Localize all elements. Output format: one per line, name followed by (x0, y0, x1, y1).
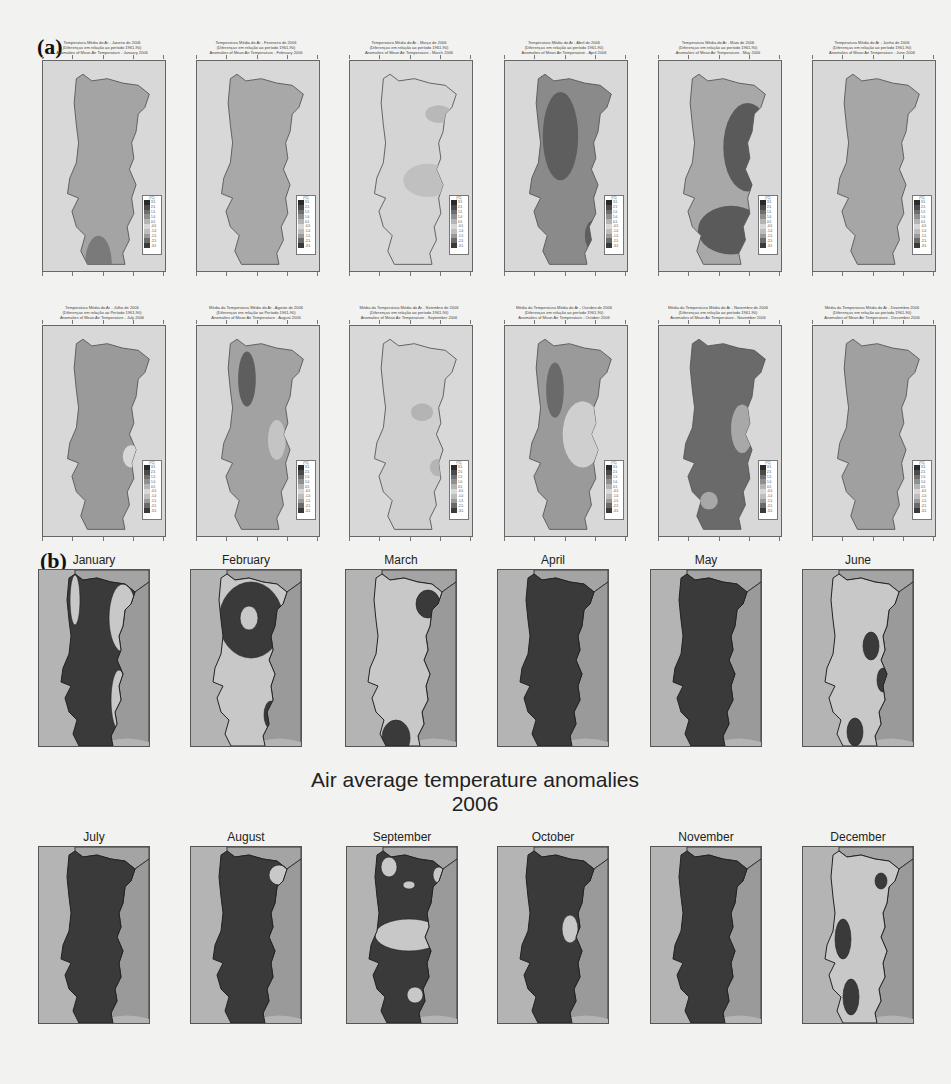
legend-entry: -3.5 (297, 243, 315, 248)
map-a-november: Média da Temperatura Média do Ar - Novem… (650, 305, 786, 543)
color-legend: (ºC)3.52.51.51.00.5-0.5-1.0-1.5-2.5-3.5 (296, 195, 316, 255)
map-b-title: February (190, 553, 302, 567)
axis-ticks (812, 320, 934, 324)
map-b-frame (38, 569, 150, 747)
legend-entry: -3.5 (605, 508, 623, 513)
legend-entry: -3.5 (450, 508, 468, 513)
axis-ticks (349, 537, 471, 541)
map-a-frame: (ºC)3.52.51.51.00.5-0.5-1.0-1.5-2.5-3.5 (812, 325, 936, 537)
map-b-frame (38, 846, 150, 1024)
map-a-title: Temperatura Média do Ar - Junho de 2006(… (804, 40, 940, 55)
map-a-title: Temperatura Média do Ar - Maio de 2006(D… (650, 40, 786, 55)
axis-ticks (504, 272, 626, 276)
axis-ticks (658, 320, 780, 324)
map-b-frame (802, 569, 914, 747)
main-title-line2: 2006 (250, 792, 700, 816)
axis-ticks (42, 320, 164, 324)
color-legend: (ºC)3.52.51.51.00.5-0.5-1.0-1.5-2.5-3.5 (142, 195, 162, 255)
color-legend: (ºC)3.52.51.51.00.5-0.5-1.0-1.5-2.5-3.5 (449, 195, 469, 255)
axis-ticks (504, 537, 626, 541)
map-a-title: Temperatura Média do Ar - Fevereiro de 2… (188, 40, 324, 55)
map-a-frame: (ºC)3.52.51.51.00.5-0.5-1.0-1.5-2.5-3.5 (196, 325, 320, 537)
map-b-frame (190, 846, 302, 1024)
axis-ticks (504, 320, 626, 324)
map-a-frame: (ºC)3.52.51.51.00.5-0.5-1.0-1.5-2.5-3.5 (42, 60, 166, 272)
color-legend: (ºC)3.52.51.51.00.5-0.5-1.0-1.5-2.5-3.5 (604, 460, 624, 520)
map-a-title: Temperatura Média do Ar - Março de 2006(… (341, 40, 477, 55)
legend-entry: -3.5 (143, 243, 161, 248)
map-a-frame: (ºC)3.52.51.51.00.5-0.5-1.0-1.5-2.5-3.5 (658, 325, 782, 537)
map-b-title: January (38, 553, 150, 567)
axis-ticks (658, 55, 780, 59)
map-a-june: Temperatura Média do Ar - Junho de 2006(… (804, 40, 940, 278)
color-legend: (ºC)3.52.51.51.00.5-0.5-1.0-1.5-2.5-3.5 (296, 460, 316, 520)
legend-entry: -3.5 (450, 243, 468, 248)
map-a-title: Temperatura Média do Ar - Abril de 2006(… (496, 40, 632, 55)
axis-ticks (658, 537, 780, 541)
map-b-frame (345, 569, 457, 747)
map-b-title: August (190, 830, 302, 844)
legend-entry: -3.5 (913, 508, 931, 513)
map-b-title: June (802, 553, 914, 567)
axis-ticks (42, 272, 164, 276)
axis-ticks (42, 55, 164, 59)
legend-entry: -3.5 (913, 243, 931, 248)
axis-ticks (349, 55, 471, 59)
map-a-frame: (ºC)3.52.51.51.00.5-0.5-1.0-1.5-2.5-3.5 (504, 60, 628, 272)
map-b-title: March (345, 553, 457, 567)
main-title-line1: Air average temperature anomalies (250, 768, 700, 792)
map-a-february: Temperatura Média do Ar - Fevereiro de 2… (188, 40, 324, 278)
map-b-frame (802, 846, 914, 1024)
map-a-title: Média da Temperatura Média do Ar - Agost… (188, 305, 324, 320)
map-a-frame: (ºC)3.52.51.51.00.5-0.5-1.0-1.5-2.5-3.5 (812, 60, 936, 272)
map-a-may: Temperatura Média do Ar - Maio de 2006(D… (650, 40, 786, 278)
axis-ticks (349, 320, 471, 324)
map-b-frame (497, 569, 609, 747)
color-legend: (ºC)3.52.51.51.00.5-0.5-1.0-1.5-2.5-3.5 (758, 460, 778, 520)
axis-ticks (812, 537, 934, 541)
map-a-frame: (ºC)3.52.51.51.00.5-0.5-1.0-1.5-2.5-3.5 (349, 60, 473, 272)
map-b-title: October (497, 830, 609, 844)
legend-entry: -3.5 (759, 508, 777, 513)
map-b-frame (497, 846, 609, 1024)
map-b-title: November (650, 830, 762, 844)
map-a-august: Média da Temperatura Média do Ar - Agost… (188, 305, 324, 543)
axis-ticks (196, 55, 318, 59)
legend-entry: -3.5 (605, 243, 623, 248)
map-b-title: May (650, 553, 762, 567)
axis-ticks (196, 537, 318, 541)
axis-ticks (196, 320, 318, 324)
map-b-frame (650, 846, 762, 1024)
map-b-title: April (497, 553, 609, 567)
map-a-september: Média da Temperatura Média do Ar - Setem… (341, 305, 477, 543)
map-a-frame: (ºC)3.52.51.51.00.5-0.5-1.0-1.5-2.5-3.5 (658, 60, 782, 272)
axis-ticks (658, 272, 780, 276)
map-b-title: September (346, 830, 458, 844)
map-b-frame (650, 569, 762, 747)
map-a-title: Temperatura Média do Ar - Julho de 2006(… (34, 305, 170, 320)
map-a-frame: (ºC)3.52.51.51.00.5-0.5-1.0-1.5-2.5-3.5 (504, 325, 628, 537)
legend-entry: -3.5 (297, 508, 315, 513)
map-a-march: Temperatura Média do Ar - Março de 2006(… (341, 40, 477, 278)
map-a-january: Temperatura Média do Ar - Janeiro de 200… (34, 40, 170, 278)
axis-ticks (196, 272, 318, 276)
axis-ticks (812, 55, 934, 59)
map-a-title: Média da Temperatura Média do Ar - Novem… (650, 305, 786, 320)
axis-ticks (504, 55, 626, 59)
figure-main-title: Air average temperature anomalies 2006 (250, 768, 700, 816)
map-a-december: Média da Temperatura Média do Ar - Dezem… (804, 305, 940, 543)
axis-ticks (349, 272, 471, 276)
legend-entry: -3.5 (143, 508, 161, 513)
map-b-title: December (802, 830, 914, 844)
axis-ticks (812, 272, 934, 276)
color-legend: (ºC)3.52.51.51.00.5-0.5-1.0-1.5-2.5-3.5 (912, 460, 932, 520)
map-b-frame (190, 569, 302, 747)
color-legend: (ºC)3.52.51.51.00.5-0.5-1.0-1.5-2.5-3.5 (758, 195, 778, 255)
map-a-frame: (ºC)3.52.51.51.00.5-0.5-1.0-1.5-2.5-3.5 (42, 325, 166, 537)
legend-entry: -3.5 (759, 243, 777, 248)
map-a-april: Temperatura Média do Ar - Abril de 2006(… (496, 40, 632, 278)
map-b-title: July (38, 830, 150, 844)
color-legend: (ºC)3.52.51.51.00.5-0.5-1.0-1.5-2.5-3.5 (449, 460, 469, 520)
color-legend: (ºC)3.52.51.51.00.5-0.5-1.0-1.5-2.5-3.5 (142, 460, 162, 520)
map-a-july: Temperatura Média do Ar - Julho de 2006(… (34, 305, 170, 543)
